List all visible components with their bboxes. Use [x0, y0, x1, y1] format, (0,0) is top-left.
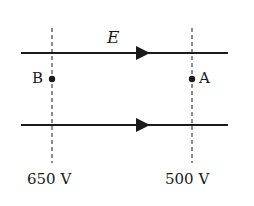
electric-field-diagram: E B A 650 V 500 V — [0, 0, 254, 206]
potential-label-b: 650 V — [27, 172, 71, 187]
potential-label-a: 500 V — [165, 172, 209, 187]
point-a-label: A — [199, 71, 210, 86]
field-arrow-bottom-icon — [136, 118, 150, 132]
point-a-dot — [189, 76, 195, 82]
point-b-dot — [49, 76, 55, 82]
field-label: E — [107, 29, 119, 46]
field-arrow-top-icon — [136, 46, 150, 60]
point-b-label: B — [32, 71, 43, 86]
